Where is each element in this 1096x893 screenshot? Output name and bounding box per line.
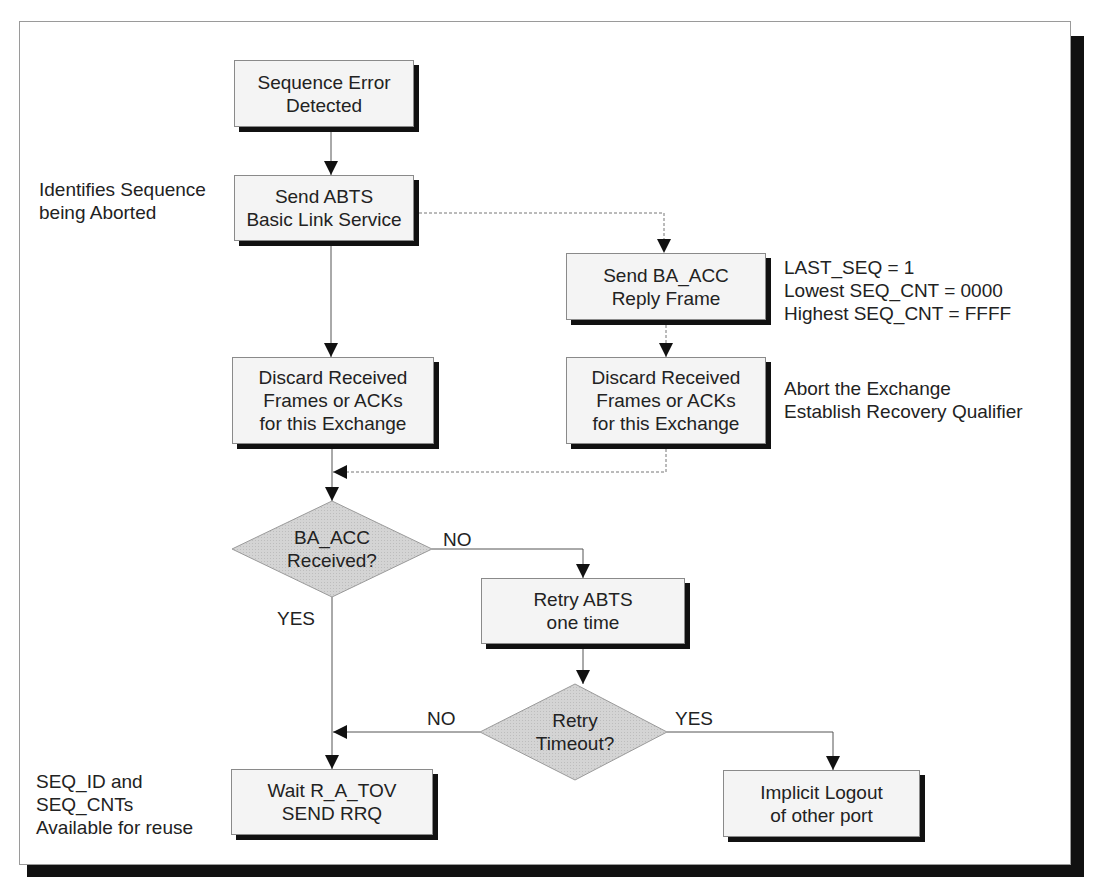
node-wait-rrq: Wait R_A_TOV SEND RRQ — [231, 769, 433, 835]
flowchart-canvas: Sequence Error Detected Send ABTS Basic … — [0, 0, 1096, 893]
node-send-ba-acc-text: Send BA_ACC Reply Frame — [603, 264, 729, 310]
node-retry-abts: Retry ABTS one time — [481, 578, 685, 644]
node-implicit-logout-text: Implicit Logout of other port — [760, 781, 883, 827]
note-abort-exchange: Abort the Exchange Establish Recovery Qu… — [784, 377, 1023, 423]
decision-retry-timeout-text: Retry Timeout? — [505, 709, 645, 755]
node-discard-left: Discard Received Frames or ACKs for this… — [232, 357, 434, 444]
edge-decision-no-to-retry — [432, 549, 583, 578]
node-send-ba-acc: Send BA_ACC Reply Frame — [566, 253, 766, 320]
node-sequence-error: Sequence Error Detected — [234, 60, 414, 127]
node-sequence-error-text: Sequence Error Detected — [257, 71, 390, 117]
node-discard-right-text: Discard Received Frames or ACKs for this… — [592, 366, 741, 435]
edge-label-ba-acc-no: NO — [443, 528, 472, 551]
edge-label-ba-acc-yes: YES — [277, 607, 315, 630]
edge-label-timeout-yes: YES — [675, 707, 713, 730]
node-discard-left-text: Discard Received Frames or ACKs for this… — [259, 366, 408, 435]
edge-timeout-yes-to-logout — [667, 732, 833, 770]
connector-layer — [0, 0, 1096, 893]
node-send-abts: Send ABTS Basic Link Service — [234, 175, 414, 241]
decision-ba-acc-received-text: BA_ACC Received? — [262, 526, 402, 572]
edge-discard-right-to-merge — [333, 449, 666, 472]
note-identifies-sequence: Identifies Sequence being Aborted — [39, 178, 206, 224]
edge-label-timeout-no: NO — [427, 707, 456, 730]
node-implicit-logout: Implicit Logout of other port — [723, 770, 920, 837]
node-retry-abts-text: Retry ABTS one time — [533, 588, 632, 634]
node-wait-rrq-text: Wait R_A_TOV SEND RRQ — [268, 779, 397, 825]
node-send-abts-text: Send ABTS Basic Link Service — [246, 185, 401, 231]
note-seq-reuse: SEQ_ID and SEQ_CNTs Available for reuse — [36, 770, 193, 839]
edge-abts-to-ba-acc — [419, 213, 664, 253]
node-discard-right: Discard Received Frames or ACKs for this… — [566, 357, 766, 444]
note-ba-acc-fields: LAST_SEQ = 1 Lowest SEQ_CNT = 0000 Highe… — [784, 256, 1011, 325]
